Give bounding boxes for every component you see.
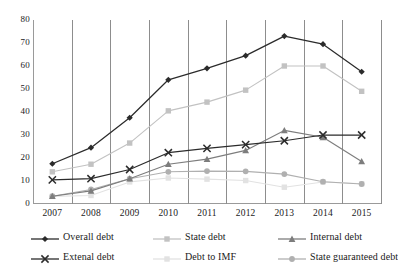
marker-diamond bbox=[88, 145, 94, 151]
marker-x bbox=[165, 149, 172, 156]
marker-diamond bbox=[320, 41, 326, 47]
gridline-3 bbox=[149, 20, 150, 204]
marker-square bbox=[243, 87, 248, 92]
marker-x bbox=[203, 145, 210, 152]
marker-circle bbox=[281, 171, 287, 177]
legend-item-state-debt[interactable]: State debt bbox=[152, 229, 226, 245]
marker-square bbox=[166, 175, 171, 180]
marker-circle bbox=[243, 168, 249, 174]
legend-item-internal-debt[interactable]: Internal debt bbox=[277, 229, 362, 245]
marker-circle bbox=[204, 168, 210, 174]
legend-label: Debt to IMF bbox=[185, 251, 236, 263]
marker-square bbox=[88, 162, 93, 167]
series-state-debt bbox=[50, 63, 365, 174]
series-internal-debt bbox=[49, 127, 365, 199]
marker-x bbox=[126, 166, 133, 173]
marker-x bbox=[358, 131, 365, 138]
marker-square bbox=[320, 63, 325, 68]
x-tick-2008: 2008 bbox=[71, 208, 111, 219]
legend-marker-diamond-icon bbox=[30, 231, 60, 243]
legend-label: State guaranteed debt bbox=[310, 251, 398, 263]
marker-diamond bbox=[281, 33, 287, 39]
x-tick-2010: 2010 bbox=[148, 208, 188, 219]
legend-marker-triangle-icon bbox=[277, 231, 307, 243]
marker-circle bbox=[320, 179, 326, 185]
marker-triangle bbox=[204, 156, 211, 162]
y-axis-line bbox=[33, 20, 34, 204]
marker-circle bbox=[49, 193, 55, 199]
x-tick-2015: 2015 bbox=[342, 208, 382, 219]
x-tick-2013: 2013 bbox=[264, 208, 304, 219]
y-tick-20: 20 bbox=[4, 153, 30, 162]
marker-square bbox=[127, 140, 132, 145]
y-tick-0: 0 bbox=[4, 199, 30, 208]
y-tick-30: 30 bbox=[4, 130, 30, 139]
marker-diamond bbox=[49, 161, 55, 167]
marker-square bbox=[282, 185, 287, 190]
marker-triangle bbox=[88, 187, 95, 193]
y-tick-80: 80 bbox=[4, 15, 30, 24]
legend-marker-square-icon bbox=[152, 251, 182, 263]
series-extenal-debt bbox=[49, 131, 366, 183]
gridline-6 bbox=[265, 20, 266, 204]
marker-x bbox=[319, 131, 326, 138]
marker-circle bbox=[88, 187, 94, 193]
marker-circle bbox=[165, 169, 171, 175]
marker-square bbox=[127, 179, 132, 184]
marker-square bbox=[166, 108, 171, 113]
legend-item-overall-debt[interactable]: Overall debt bbox=[30, 229, 114, 245]
x-tick-2014: 2014 bbox=[303, 208, 343, 219]
marker-square bbox=[243, 178, 248, 183]
marker-x bbox=[242, 141, 249, 148]
x-tick-2007: 2007 bbox=[32, 208, 72, 219]
marker-diamond bbox=[243, 53, 249, 59]
marker-triangle bbox=[281, 127, 288, 133]
marker-square bbox=[164, 256, 169, 261]
legend-item-debt-to-imf[interactable]: Debt to IMF bbox=[152, 249, 236, 265]
chart-legend: Overall debtState debtInternal debtExten… bbox=[24, 229, 384, 269]
y-tick-10: 10 bbox=[4, 176, 30, 185]
marker-triangle bbox=[242, 147, 249, 153]
y-tick-50: 50 bbox=[4, 84, 30, 93]
marker-square bbox=[204, 176, 209, 181]
marker-triangle bbox=[126, 175, 133, 181]
series-overall-debt bbox=[49, 33, 365, 167]
legend-marker-x-icon bbox=[30, 251, 60, 263]
x-tick-2012: 2012 bbox=[226, 208, 266, 219]
series-state-guaranteed-debt bbox=[49, 168, 364, 199]
marker-x bbox=[49, 176, 56, 183]
legend-marker-square-icon bbox=[152, 231, 182, 243]
marker-square bbox=[320, 179, 325, 184]
series-debt-to-imf bbox=[50, 175, 365, 199]
y-tick-60: 60 bbox=[4, 61, 30, 70]
x-tick-2011: 2011 bbox=[187, 208, 227, 219]
marker-square bbox=[359, 89, 364, 94]
marker-x bbox=[87, 175, 94, 182]
gridline-right-edge bbox=[381, 20, 382, 204]
legend-item-state-guaranteed-debt[interactable]: State guaranteed debt bbox=[277, 249, 398, 265]
marker-triangle bbox=[49, 193, 56, 199]
marker-x bbox=[281, 137, 288, 144]
gridline-4 bbox=[188, 20, 189, 204]
gridline-7 bbox=[304, 20, 305, 204]
gridline-8 bbox=[342, 20, 343, 204]
marker-circle bbox=[359, 181, 365, 187]
gridline-1 bbox=[72, 20, 73, 204]
gridline-5 bbox=[226, 20, 227, 204]
legend-marker-circle-icon bbox=[277, 251, 307, 263]
legend-label: Internal debt bbox=[310, 231, 362, 243]
marker-diamond bbox=[204, 65, 210, 71]
marker-square bbox=[359, 181, 364, 186]
x-axis-line bbox=[33, 203, 381, 204]
legend-label: Extenal debt bbox=[63, 251, 114, 263]
marker-diamond bbox=[127, 115, 133, 121]
marker-diamond bbox=[42, 236, 48, 242]
y-tick-70: 70 bbox=[4, 38, 30, 47]
legend-label: State debt bbox=[185, 231, 226, 243]
marker-circle bbox=[127, 176, 133, 182]
marker-square bbox=[204, 99, 209, 104]
y-tick-40: 40 bbox=[4, 107, 30, 116]
marker-square bbox=[164, 236, 169, 241]
legend-item-extenal-debt[interactable]: Extenal debt bbox=[30, 249, 114, 265]
